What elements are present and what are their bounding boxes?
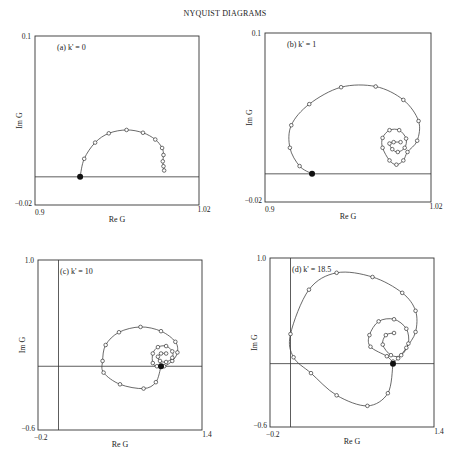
data-point-marker: [396, 357, 400, 361]
data-point-marker: [82, 157, 86, 161]
data-point-marker: [156, 345, 160, 349]
data-point-marker: [388, 128, 392, 132]
data-point-marker: [117, 330, 121, 334]
data-point-marker: [400, 291, 404, 295]
y-axis-label: Im G: [245, 109, 254, 126]
data-point-marker: [369, 345, 373, 349]
x-tick-label-left: −0.2: [266, 430, 280, 439]
nyquist-figure: 0.1−0.020.91.02Re GIm G(a) k' = 0 0.1−0.…: [0, 0, 450, 462]
y-axis-label: Im G: [15, 112, 24, 129]
data-point-marker: [339, 85, 343, 89]
x-tick-label-left: 0.9: [35, 208, 45, 217]
data-point-marker: [139, 325, 143, 329]
data-point-marker: [151, 361, 155, 365]
x-axis-label: Re G: [344, 437, 361, 446]
data-point-marker: [141, 131, 145, 135]
data-point-marker: [415, 139, 419, 143]
data-point-marker: [118, 383, 122, 387]
endpoint-marker: [158, 363, 164, 369]
x-tick-label-right: 1.4: [202, 430, 212, 439]
x-tick-label-right: 1.02: [197, 205, 210, 214]
data-point-marker: [385, 354, 389, 358]
data-point-marker: [162, 169, 166, 173]
data-point-marker: [170, 350, 174, 354]
data-point-marker: [104, 343, 108, 347]
data-point-marker: [395, 163, 399, 167]
data-point-marker: [366, 404, 370, 408]
data-point-marker: [164, 344, 168, 348]
data-point-marker: [381, 146, 385, 150]
endpoint-marker: [77, 174, 83, 180]
data-point-marker: [125, 128, 129, 132]
data-point-marker: [414, 309, 418, 313]
data-point-marker: [159, 352, 163, 356]
y-axis-label: Im G: [250, 334, 259, 351]
data-point-marker: [102, 371, 106, 375]
plot-frame: [35, 36, 199, 205]
nyquist-locus-line: [80, 130, 164, 177]
y-tick-label-top: 1.0: [257, 254, 267, 263]
data-point-marker: [176, 351, 180, 355]
y-tick-label-top: 0.1: [22, 32, 32, 41]
data-point-marker: [407, 342, 411, 346]
y-tick-label-top: 0.1: [252, 29, 262, 38]
data-point-marker: [154, 380, 158, 384]
data-point-marker: [162, 153, 166, 157]
data-point-marker: [374, 85, 378, 89]
panel-title: (c) k' = 10: [60, 267, 93, 276]
panel-title: (b) k' = 1: [287, 40, 316, 49]
panel-b: 0.1−0.020.91.02Re GIm G(b) k' = 1: [245, 29, 443, 221]
panel-d: 1.0−0.6−0.21.4Re GIm G(d) k' = 18.5: [250, 254, 444, 446]
nyquist-locus-line: [289, 272, 417, 406]
data-point-marker: [414, 330, 418, 334]
panel-title: (a) k' = 0: [57, 43, 86, 52]
x-tick-label-left: 0.9: [265, 205, 275, 214]
data-point-marker: [386, 391, 390, 395]
data-point-marker: [404, 137, 408, 141]
y-tick-label-bottom: −0.6: [21, 424, 35, 433]
data-point-marker: [381, 343, 385, 347]
data-point-marker: [368, 333, 372, 337]
data-point-marker: [417, 119, 421, 123]
data-point-marker: [390, 147, 394, 151]
x-tick-label-right: 1.4: [434, 427, 444, 436]
data-point-marker: [288, 146, 292, 150]
endpoint-marker: [390, 361, 396, 367]
x-axis-label: Re G: [109, 215, 126, 224]
data-point-marker: [388, 159, 392, 163]
y-axis-label: Im G: [18, 336, 27, 353]
x-axis-label: Re G: [340, 212, 357, 221]
x-tick-label-right: 1.02: [429, 202, 442, 211]
data-point-marker: [153, 138, 157, 142]
data-point-marker: [406, 150, 410, 154]
data-point-marker: [101, 359, 105, 363]
data-point-marker: [162, 164, 166, 168]
data-point-marker: [93, 141, 97, 145]
data-point-marker: [388, 142, 392, 146]
data-point-marker: [392, 331, 396, 335]
data-point-marker: [335, 271, 339, 275]
x-tick-label-left: −0.2: [34, 433, 48, 442]
data-point-marker: [399, 140, 403, 144]
plot-frame: [265, 33, 431, 202]
panel-a: 0.1−0.020.91.02Re GIm G(a) k' = 0: [15, 32, 211, 224]
data-point-marker: [399, 353, 403, 357]
data-point-marker: [151, 352, 155, 356]
panel-title: (d) k' = 18.5: [292, 265, 331, 274]
data-point-marker: [156, 355, 160, 359]
data-point-marker: [397, 128, 401, 132]
data-point-marker: [289, 332, 293, 336]
data-point-marker: [161, 160, 165, 164]
data-point-marker: [307, 288, 311, 292]
data-point-marker: [142, 387, 146, 391]
data-point-marker: [107, 132, 111, 136]
data-point-marker: [405, 327, 409, 331]
data-point-marker: [396, 150, 400, 154]
data-point-marker: [164, 352, 168, 356]
data-point-marker: [289, 123, 293, 127]
data-point-marker: [335, 394, 339, 398]
data-point-marker: [392, 317, 396, 321]
data-point-marker: [170, 356, 174, 360]
data-point-marker: [158, 359, 162, 363]
data-point-marker: [381, 136, 385, 140]
